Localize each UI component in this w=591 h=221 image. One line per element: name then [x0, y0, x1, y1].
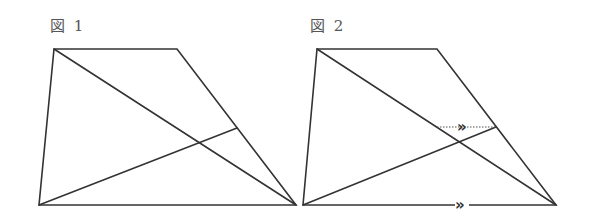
parallel-mark-icon: » [455, 196, 465, 214]
figure-2-diagonal [317, 49, 556, 205]
figure-2-cevian [303, 127, 496, 205]
figure-1-diagonal [54, 49, 296, 205]
figure-1-trapezoid [39, 49, 296, 205]
parallel-mark-icon: » [457, 118, 467, 136]
figure-1 [39, 49, 296, 205]
figure-2-trapezoid [303, 49, 556, 205]
figure-1-cevian [39, 128, 237, 205]
diagram-canvas: » » [0, 0, 591, 221]
figure-2: » » [303, 49, 556, 214]
